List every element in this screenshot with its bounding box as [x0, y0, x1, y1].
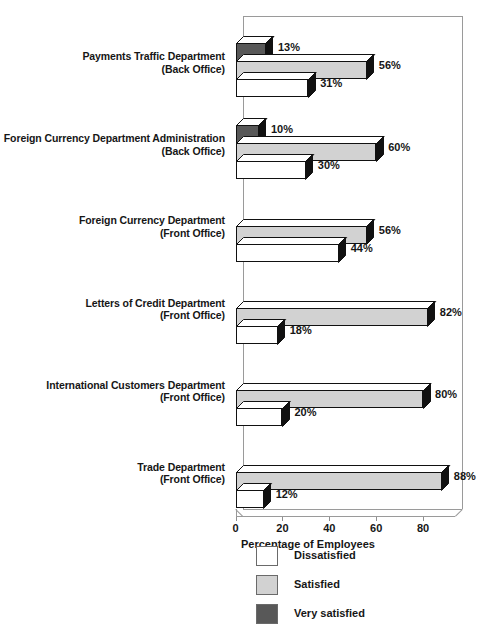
bar-dissatisfied-3-top-face	[236, 237, 348, 246]
bar-dissatisfied-3	[236, 244, 339, 262]
category-label-5: International Customers Department(Front…	[0, 379, 225, 404]
category-label-line1: Foreign Currency Department Administrati…	[4, 132, 225, 144]
category-label-line2: (Front Office)	[0, 227, 225, 240]
bar-dissatisfied-6-front-face	[236, 490, 264, 508]
bar-dissatisfied-4-side-face	[277, 319, 286, 346]
bar-value-label-satisfied-2: 60%	[388, 141, 410, 153]
bar-satisfied-3-top-face	[236, 219, 376, 228]
bar-dissatisfied-1-side-face	[308, 72, 317, 99]
bar-dissatisfied-6-side-face	[263, 483, 272, 510]
category-label-line1: International Customers Department	[46, 379, 225, 391]
plot-frame-top	[243, 16, 463, 17]
bar-dissatisfied-2-front-face	[236, 161, 306, 179]
category-label-2: Foreign Currency Department Administrati…	[0, 132, 225, 157]
bar-chart-figure: Payments Traffic Department(Back Office)…	[0, 0, 480, 641]
legend-swatch-0	[256, 546, 278, 566]
legend-label-0: Dissatisfied	[294, 549, 356, 561]
category-label-line2: (Back Office)	[0, 63, 225, 76]
legend-label-2: Very satisfied	[294, 607, 365, 619]
x-tick-label-80: 80	[408, 522, 438, 534]
bar-value-label-satisfied-6: 88%	[454, 470, 476, 482]
plot-frame-back-floor	[243, 509, 463, 510]
bar-satisfied-2-top-face	[236, 136, 386, 145]
bar-dissatisfied-1-front-face	[236, 79, 309, 97]
axis-baseline	[236, 516, 456, 517]
bar-satisfied-4-top-face	[236, 301, 437, 310]
category-label-1: Payments Traffic Department(Back Office)	[0, 50, 225, 75]
bar-satisfied-6-top-face	[236, 465, 451, 474]
bar-value-label-dissatisfied-6: 12%	[276, 488, 298, 500]
x-tick-label-60: 60	[361, 522, 391, 534]
category-label-line1: Foreign Currency Department	[79, 214, 225, 226]
bar-dissatisfied-6	[236, 490, 264, 508]
category-label-line1: Trade Department	[137, 461, 225, 473]
bar-value-label-dissatisfied-3: 44%	[351, 242, 373, 254]
bar-satisfied-5-top-face	[236, 383, 433, 392]
category-label-6: Trade Department(Front Office)	[0, 461, 225, 486]
bar-satisfied-1-top-face	[236, 54, 376, 63]
bar-satisfied-5-side-face	[423, 383, 432, 410]
legend-label-1: Satisfied	[294, 578, 340, 590]
category-label-4: Letters of Credit Department(Front Offic…	[0, 297, 225, 322]
legend-swatch-1	[256, 575, 278, 595]
plot-frame-right	[462, 16, 463, 509]
bar-value-label-dissatisfied-2: 30%	[318, 159, 340, 171]
bar-dissatisfied-1	[236, 79, 309, 97]
bar-satisfied-1-side-face	[366, 54, 375, 81]
bar-value-label-very_satisfied-2: 10%	[271, 123, 293, 135]
category-label-line2: (Front Office)	[0, 391, 225, 404]
bar-dissatisfied-3-front-face	[236, 244, 339, 262]
bar-value-label-satisfied-4: 82%	[440, 306, 462, 318]
category-label-3: Foreign Currency Department(Front Office…	[0, 214, 225, 239]
bar-dissatisfied-2-top-face	[236, 154, 315, 163]
category-label-line2: (Front Office)	[0, 473, 225, 486]
bar-value-label-very_satisfied-1: 13%	[278, 41, 300, 53]
legend-swatch-2	[256, 604, 278, 624]
bar-value-label-satisfied-3: 56%	[379, 224, 401, 236]
bar-value-label-dissatisfied-1: 31%	[320, 77, 342, 89]
bar-dissatisfied-4-front-face	[236, 326, 278, 344]
bar-dissatisfied-1-top-face	[236, 72, 318, 81]
bar-dissatisfied-2	[236, 161, 306, 179]
bar-value-label-dissatisfied-5: 20%	[294, 406, 316, 418]
bar-dissatisfied-5-front-face	[236, 408, 283, 426]
category-label-line1: Payments Traffic Department	[82, 50, 225, 62]
category-label-line1: Letters of Credit Department	[85, 297, 225, 309]
x-tick-label-0: 0	[221, 522, 251, 534]
bar-value-label-satisfied-5: 80%	[435, 388, 457, 400]
bar-dissatisfied-5	[236, 408, 283, 426]
x-tick-label-40: 40	[314, 522, 344, 534]
axis-skew-line-right	[455, 509, 463, 517]
x-tick-60	[376, 517, 377, 521]
bar-satisfied-2-side-face	[376, 136, 385, 163]
x-tick-40	[329, 517, 330, 521]
bar-dissatisfied-4	[236, 326, 278, 344]
bar-satisfied-6-side-face	[441, 465, 450, 492]
x-tick-0	[236, 517, 237, 521]
bar-dissatisfied-5-side-face	[282, 401, 291, 428]
x-tick-label-20: 20	[267, 522, 297, 534]
x-tick-80	[423, 517, 424, 521]
bar-dissatisfied-2-side-face	[305, 154, 314, 181]
bar-satisfied-4-side-face	[427, 301, 436, 328]
category-label-line2: (Front Office)	[0, 309, 225, 322]
bar-value-label-dissatisfied-4: 18%	[290, 324, 312, 336]
category-label-line2: (Back Office)	[0, 145, 225, 158]
bar-value-label-satisfied-1: 56%	[379, 59, 401, 71]
x-tick-20	[282, 517, 283, 521]
bar-dissatisfied-3-side-face	[338, 237, 347, 264]
